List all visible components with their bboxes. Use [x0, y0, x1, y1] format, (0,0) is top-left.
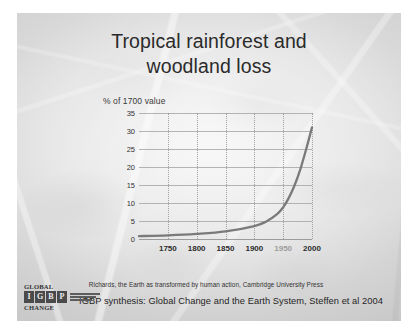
y-tick-label: 20 — [127, 163, 135, 172]
logo-letter: P — [57, 291, 67, 303]
logo-top-word: GLOBAL — [24, 283, 53, 290]
y-tick-label: 0 — [131, 235, 135, 244]
x-tick-label: 1850 — [217, 244, 235, 253]
logo-letter: I — [24, 291, 34, 303]
logo-letters: IGBP — [24, 291, 68, 303]
y-axis-label: % of 1700 value — [103, 96, 165, 106]
y-tick-label: 15 — [127, 181, 135, 190]
line-chart: % of 1700 value 05101520253035 175018001… — [103, 96, 318, 256]
y-tick-label: 5 — [131, 217, 135, 226]
chart-plot-area: 05101520253035 175018001850190019502000 — [139, 113, 312, 239]
logo-bottom-word: CHANGE — [24, 304, 54, 311]
x-tick-label: 1750 — [159, 244, 177, 253]
gridline-y — [139, 239, 312, 240]
y-tick-label: 25 — [127, 145, 135, 154]
y-tick-label: 10 — [127, 199, 135, 208]
slide-title: Tropical rainforest and woodland loss — [17, 29, 401, 79]
x-tick-label: 1900 — [245, 244, 263, 253]
y-tick-label: 35 — [127, 109, 135, 118]
gridline-x — [312, 113, 313, 239]
y-tick-label: 30 — [127, 127, 135, 136]
slide-caption: IGBP synthesis: Global Change and the Ea… — [65, 296, 397, 306]
presentation-slide: Tropical rainforest and woodland loss % … — [17, 13, 401, 321]
x-tick-label: 2000 — [303, 244, 321, 253]
logo-letter: B — [46, 291, 56, 303]
logo-letter: G — [35, 291, 45, 303]
data-series-curve — [139, 113, 312, 239]
x-tick-label: 1800 — [188, 244, 206, 253]
logo-subtitle-lines — [70, 291, 100, 303]
igbp-logo: GLOBAL IGBP CHANGE — [24, 283, 98, 313]
x-tick-label: 1950 — [274, 244, 292, 253]
logo-letterblocks: IGBP — [24, 291, 100, 303]
